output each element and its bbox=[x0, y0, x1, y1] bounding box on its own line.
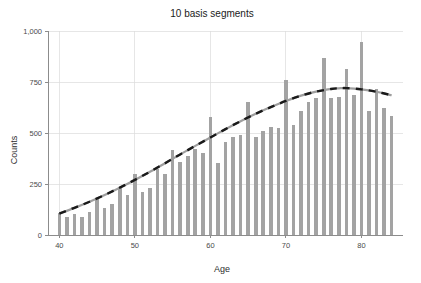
x-tick-label: 50 bbox=[131, 241, 139, 250]
chart-canvas: 02505007501,0004050607080 10 basis segme… bbox=[0, 0, 421, 283]
bar bbox=[133, 174, 137, 235]
x-tick-label: 40 bbox=[55, 241, 63, 250]
bar bbox=[292, 125, 296, 235]
bar bbox=[148, 188, 152, 235]
bar bbox=[352, 95, 356, 235]
bar bbox=[367, 111, 371, 235]
bar bbox=[390, 116, 394, 235]
bar bbox=[277, 128, 281, 235]
bar bbox=[163, 174, 167, 235]
bar bbox=[261, 131, 265, 235]
x-tick-label: 70 bbox=[282, 241, 290, 250]
bar bbox=[299, 111, 303, 235]
chart-title: 10 basis segments bbox=[170, 8, 253, 19]
y-tick-label: 1,000 bbox=[23, 27, 42, 36]
bar bbox=[337, 97, 341, 235]
x-axis-title: Age bbox=[214, 264, 230, 274]
bar-series bbox=[58, 42, 394, 235]
y-tick-label: 0 bbox=[38, 231, 42, 240]
bar bbox=[284, 80, 288, 235]
bar bbox=[88, 212, 92, 235]
bar bbox=[329, 98, 333, 235]
bar bbox=[382, 108, 386, 235]
x-tick-label: 60 bbox=[206, 241, 214, 250]
bar bbox=[254, 137, 258, 235]
bar bbox=[118, 188, 122, 235]
bar bbox=[103, 208, 107, 235]
bar bbox=[224, 142, 228, 235]
bar bbox=[216, 163, 220, 235]
bar bbox=[186, 156, 190, 235]
bar bbox=[58, 213, 62, 235]
y-tick-label: 500 bbox=[29, 129, 42, 138]
bar bbox=[231, 137, 235, 235]
bar bbox=[375, 89, 379, 235]
bar bbox=[65, 217, 69, 235]
bar bbox=[209, 117, 213, 235]
bar bbox=[193, 149, 197, 235]
y-axis-title: Counts bbox=[9, 135, 19, 164]
y-tick-label: 250 bbox=[29, 180, 42, 189]
bar bbox=[322, 58, 326, 235]
bar bbox=[239, 135, 243, 235]
bar bbox=[80, 217, 84, 235]
bar bbox=[141, 192, 145, 235]
bar bbox=[126, 195, 130, 235]
bar bbox=[95, 199, 99, 235]
bar bbox=[171, 150, 175, 235]
chart-container: 02505007501,0004050607080 10 basis segme… bbox=[0, 0, 421, 283]
bar bbox=[307, 102, 311, 235]
x-tick-label: 80 bbox=[357, 241, 365, 250]
bar bbox=[201, 153, 205, 235]
y-tick-label: 750 bbox=[29, 78, 42, 87]
bar bbox=[73, 214, 77, 235]
bar bbox=[110, 204, 114, 235]
bar bbox=[178, 162, 182, 235]
bar bbox=[314, 98, 318, 235]
bar bbox=[156, 169, 160, 235]
bar bbox=[269, 127, 273, 235]
bar bbox=[345, 69, 349, 235]
bar bbox=[360, 42, 364, 235]
bar bbox=[246, 102, 250, 235]
